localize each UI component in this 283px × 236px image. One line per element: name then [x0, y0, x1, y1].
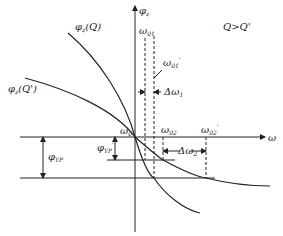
characteristic-curve-diagram: φz ω Q>Q' φz(Q) φz(Q') ω0 ω01 ω01' Δω1 ω… [0, 0, 283, 236]
omega02-label: ω02 [161, 124, 177, 136]
omega01p-label: ω01' [163, 56, 181, 69]
phi-yp-label: φYP [48, 151, 64, 163]
phi-yp-prime-label: φYP' [97, 141, 114, 154]
omega0-label: ω0 [120, 125, 132, 137]
omega01p-leader [154, 70, 162, 78]
condition-label: Q>Q' [223, 21, 251, 32]
delta-omega1-label: Δω1 [163, 86, 183, 98]
curve-Q-label: φz(Q) [75, 21, 101, 33]
omega01-label: ω01 [139, 25, 155, 37]
y-axis-label: φz [139, 5, 150, 17]
x-axis-label: ω [268, 132, 276, 143]
omega02p-label: ω02' [201, 123, 219, 136]
curve-Q-prime-label: φz(Q') [8, 83, 37, 95]
delta-omega2-label: Δω2 [177, 145, 197, 157]
